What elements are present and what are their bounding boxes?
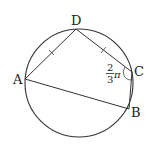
point-label-B: B — [131, 105, 141, 120]
point-label-C: C — [134, 64, 144, 79]
point-label-D: D — [71, 13, 81, 28]
segment-CB — [129, 72, 132, 109]
geometry-diagram: D A C B 2 3 π — [0, 0, 151, 148]
angle-pi-symbol: π — [113, 69, 121, 80]
angle-numerator: 2 — [107, 62, 113, 73]
tick-mark-DC — [101, 47, 106, 53]
point-label-A: A — [12, 72, 23, 87]
angle-denominator: 3 — [107, 74, 113, 85]
segment-BA — [25, 79, 129, 109]
angle-arc-C — [123, 67, 131, 80]
circumscribed-circle — [25, 29, 133, 137]
